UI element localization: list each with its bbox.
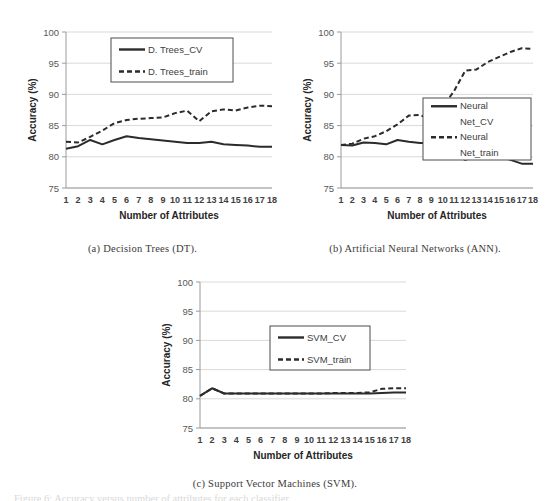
- x-tick-label: 14: [219, 195, 229, 205]
- y-tick-label: 90: [182, 335, 193, 346]
- x-tick-label: 4: [100, 195, 105, 205]
- x-tick-label: 17: [255, 195, 265, 205]
- x-tick-label: 13: [340, 435, 350, 445]
- x-tick-label: 9: [294, 435, 299, 445]
- x-tick-label: 3: [88, 195, 93, 205]
- y-axis-title: Accuracy (%): [161, 323, 172, 386]
- x-tick-label: 2: [76, 195, 81, 205]
- legend-label: Neural: [460, 131, 488, 142]
- x-tick-label: 2: [350, 195, 355, 205]
- x-tick-label: 17: [389, 435, 399, 445]
- x-axis-title: Number of Attributes: [387, 210, 487, 221]
- series-line-train: [200, 388, 406, 396]
- chart-panel-decision-trees: 7580859095100123456789101112131415161718…: [8, 10, 280, 242]
- series-line-cv: [200, 388, 406, 396]
- x-tick-label: 15: [365, 435, 375, 445]
- x-tick-label: 14: [353, 435, 363, 445]
- x-tick-label: 3: [361, 195, 366, 205]
- x-tick-label: 18: [401, 435, 411, 445]
- chart-legend: NeuralNet_CVNeuralNet_train: [423, 98, 531, 160]
- x-tick-label: 13: [206, 195, 216, 205]
- x-tick-label: 3: [222, 435, 227, 445]
- chart-svg-svm: 7580859095100123456789101112131415161718…: [142, 268, 414, 480]
- x-tick-label: 15: [231, 195, 241, 205]
- x-tick-label: 18: [528, 195, 538, 205]
- x-tick-label: 11: [449, 195, 459, 205]
- legend-label: Neural: [460, 100, 488, 111]
- y-tick-label: 75: [323, 183, 334, 194]
- cut-off-figure-caption: Figure 6: Accuracy versus number of attr…: [14, 493, 534, 501]
- x-tick-label: 1: [197, 435, 202, 445]
- y-tick-label: 90: [48, 89, 59, 100]
- x-tick-label: 7: [406, 195, 411, 205]
- x-tick-label: 15: [494, 195, 504, 205]
- series-line-cv: [66, 136, 272, 148]
- x-tick-label: 1: [63, 195, 68, 205]
- x-tick-label: 7: [136, 195, 141, 205]
- chart-panel-svm: 7580859095100123456789101112131415161718…: [142, 268, 414, 480]
- x-tick-label: 10: [170, 195, 180, 205]
- x-axis-title: Number of Attributes: [119, 210, 219, 221]
- y-tick-label: 100: [318, 27, 334, 38]
- x-tick-label: 4: [234, 435, 239, 445]
- x-tick-label: 18: [267, 195, 277, 205]
- x-tick-label: 1: [338, 195, 343, 205]
- chart-legend: D. Trees_CVD. Trees_train: [111, 38, 233, 82]
- x-tick-label: 10: [304, 435, 314, 445]
- chart-legend: SVM_CVSVM_train: [270, 326, 370, 370]
- chart-svg-dt: 7580859095100123456789101112131415161718…: [8, 10, 280, 242]
- x-tick-label: 12: [194, 195, 204, 205]
- y-tick-label: 95: [323, 58, 334, 69]
- y-tick-label: 75: [48, 183, 59, 194]
- x-tick-label: 4: [372, 195, 377, 205]
- legend-label: Net_CV: [460, 116, 494, 127]
- x-tick-label: 16: [505, 195, 515, 205]
- y-tick-label: 80: [48, 151, 59, 162]
- y-tick-label: 100: [43, 27, 59, 38]
- x-tick-label: 17: [517, 195, 527, 205]
- x-tick-label: 8: [148, 195, 153, 205]
- x-tick-label: 16: [377, 435, 387, 445]
- x-tick-label: 5: [246, 435, 251, 445]
- y-tick-label: 85: [182, 364, 193, 375]
- y-axis-title: Accuracy (%): [27, 78, 38, 141]
- y-tick-label: 90: [323, 89, 334, 100]
- subcaption-b: (b) Artificial Neural Networks (ANN).: [285, 243, 545, 254]
- y-tick-label: 80: [182, 393, 193, 404]
- x-tick-label: 6: [258, 435, 263, 445]
- legend-label: SVM_train: [307, 354, 351, 365]
- chart-svg-ann: 7580859095100123456789101112131415161718…: [283, 10, 541, 242]
- x-tick-label: 11: [182, 195, 192, 205]
- x-tick-label: 8: [282, 435, 287, 445]
- x-tick-label: 7: [270, 435, 275, 445]
- x-tick-label: 13: [472, 195, 482, 205]
- x-tick-label: 2: [210, 435, 215, 445]
- y-tick-label: 75: [182, 423, 193, 434]
- x-tick-label: 9: [160, 195, 165, 205]
- y-tick-label: 95: [182, 306, 193, 317]
- legend-label: SVM_CV: [307, 332, 347, 343]
- series-line-train: [66, 106, 272, 143]
- x-axis-title: Number of Attributes: [253, 450, 353, 461]
- y-tick-label: 95: [48, 58, 59, 69]
- legend-label: D. Trees_train: [148, 66, 208, 77]
- y-tick-label: 85: [323, 120, 334, 131]
- subcaption-c: (c) Support Vector Machines (SVM).: [130, 478, 420, 489]
- x-tick-label: 5: [112, 195, 117, 205]
- x-tick-label: 10: [438, 195, 448, 205]
- x-tick-label: 8: [418, 195, 423, 205]
- x-tick-label: 5: [384, 195, 389, 205]
- x-tick-label: 16: [243, 195, 253, 205]
- x-tick-label: 9: [429, 195, 434, 205]
- subcaption-a: (a) Decision Trees (DT).: [0, 243, 285, 254]
- x-tick-label: 11: [316, 435, 326, 445]
- y-axis-title: Accuracy (%): [302, 78, 313, 141]
- y-tick-label: 80: [323, 151, 334, 162]
- y-tick-label: 85: [48, 120, 59, 131]
- chart-panel-neural-networks: 7580859095100123456789101112131415161718…: [283, 10, 541, 242]
- x-tick-label: 6: [124, 195, 129, 205]
- x-tick-label: 6: [395, 195, 400, 205]
- x-tick-label: 12: [328, 435, 338, 445]
- y-tick-label: 100: [177, 277, 193, 288]
